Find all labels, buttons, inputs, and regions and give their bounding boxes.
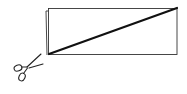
scissors-icon [13, 54, 43, 82]
diagram-canvas [0, 0, 187, 94]
back-sheet-edge [46, 11, 48, 55]
diagonal-cut-line [49, 8, 177, 54]
